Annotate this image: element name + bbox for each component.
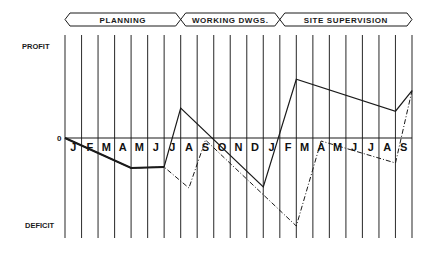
phase-label: PLANNING (100, 16, 147, 25)
gridlines (65, 35, 412, 238)
deficit-label: DEFICIT (25, 221, 55, 230)
profit-label: PROFIT (22, 42, 50, 51)
month-labels: JFMAMJJASONDJFMAMJJAS (70, 141, 407, 153)
phase-label: WORKING DWGS. (192, 16, 269, 25)
month-label: M (102, 141, 111, 153)
month-label: D (251, 141, 259, 153)
month-label: J (153, 141, 159, 153)
month-label: M (300, 141, 309, 153)
phase-band: PLANNINGWORKING DWGS.SITE SUPERVISION (65, 13, 412, 26)
month-label: S (400, 141, 407, 153)
phase-arrow-tail (65, 13, 70, 26)
month-label: A (383, 141, 391, 153)
month-label: N (235, 141, 243, 153)
phase-arrow-head (407, 13, 412, 26)
phase-label: SITE SUPERVISION (304, 16, 388, 25)
phase-1: WORKING DWGS. (186, 13, 285, 26)
phase-2: SITE SUPERVISION (285, 13, 412, 26)
profit-deficit-chart: PLANNINGWORKING DWGS.SITE SUPERVISION JF… (0, 0, 434, 254)
zero-label: 0 (57, 134, 62, 143)
phase-0: PLANNING (65, 13, 186, 26)
month-label: M (135, 141, 144, 153)
month-label: J (368, 141, 374, 153)
month-label: A (119, 141, 127, 153)
month-label: A (185, 141, 193, 153)
month-label: F (285, 141, 292, 153)
series-dash-dot (65, 91, 412, 226)
